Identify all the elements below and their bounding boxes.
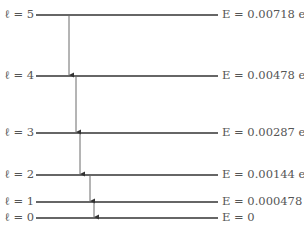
label-l1: ℓ = 1 xyxy=(0,194,34,208)
energy-label-l5: E = 0.00718 eV xyxy=(222,7,304,21)
label-l5: ℓ = 5 xyxy=(0,7,34,21)
energy-label-l1: E = 0.000478 eV xyxy=(222,194,304,208)
energy-label-l4: E = 0.00478 eV xyxy=(222,68,304,82)
label-l4: ℓ = 4 xyxy=(0,68,34,82)
energy-label-l3: E = 0.00287 eV xyxy=(222,125,304,139)
level-lines xyxy=(36,15,218,218)
energy-label-l2: E = 0.00144 eV xyxy=(222,167,304,181)
label-l3: ℓ = 3 xyxy=(0,125,34,139)
energy-label-l0: E = 0 xyxy=(222,210,255,224)
label-l0: ℓ = 0 xyxy=(0,210,34,224)
transition-arrows xyxy=(69,16,94,217)
label-l2: ℓ = 2 xyxy=(0,167,34,181)
